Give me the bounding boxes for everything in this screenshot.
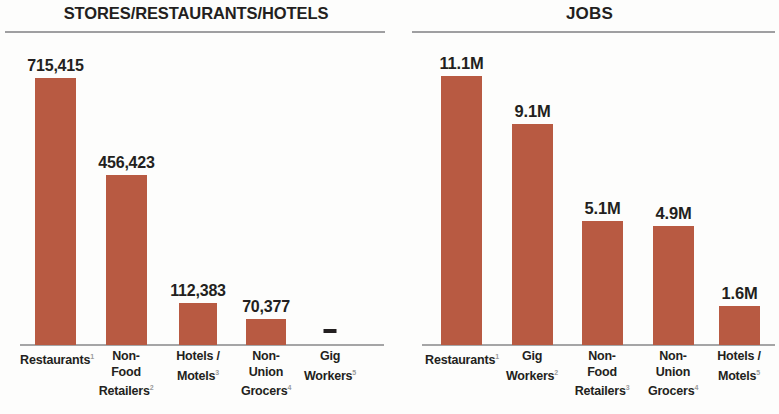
x-axis-label-line: Non- (568, 349, 636, 365)
bar-value-label: 715,415 (27, 57, 83, 75)
x-axis-label-line: Grocers4 (234, 380, 298, 400)
x-axis-label-line: Hotels / (707, 349, 771, 365)
footnote-marker: 4 (287, 384, 291, 391)
bar-value-label: 5.1M (585, 199, 621, 218)
bar-value-label: 9.1M (515, 102, 551, 121)
chart-panel-stores-restaurants-hotels: STORES/RESTAURANTS/HOTELS 715,415456,423… (0, 0, 392, 414)
bar-value-label: 11.1M (440, 54, 484, 73)
right-chart-title: JOBS (400, 4, 779, 24)
x-axis-label-line: Restaurants1 (14, 349, 100, 369)
footnote-marker: 2 (150, 384, 154, 391)
x-axis-label-line: Food (93, 365, 159, 381)
left-title-divider (5, 31, 385, 33)
x-axis-label-line: Motels3 (164, 365, 232, 385)
bar (719, 306, 760, 345)
footnote-marker: 1 (495, 353, 499, 360)
right-title-divider (412, 31, 775, 33)
footnote-marker: 5 (352, 369, 356, 376)
x-axis-label-line: Non- (234, 349, 298, 365)
bar (582, 221, 623, 345)
bar-value-label: 1.6M (722, 284, 758, 303)
x-axis-label-line: Gig (501, 349, 563, 365)
x-axis-label-line: Hotels / (164, 349, 232, 365)
x-axis-category-label: Restaurants1 (14, 349, 100, 369)
bar (441, 76, 482, 345)
right-x-axis-labels: Restaurants1GigWorkers2Non-FoodRetailers… (400, 349, 779, 414)
infographic-sheet: STORES/RESTAURANTS/HOTELS 715,415456,423… (0, 0, 779, 414)
x-axis-category-label: Non-UnionGrocers4 (234, 349, 298, 400)
x-axis-label-line: Non- (93, 349, 159, 365)
bar (653, 226, 694, 345)
left-chart-title: STORES/RESTAURANTS/HOTELS (0, 4, 392, 23)
footnote-marker: 5 (756, 369, 760, 376)
footnote-marker: 4 (694, 384, 698, 391)
x-axis-category-label: Non-FoodRetailers2 (93, 349, 159, 400)
bar-value-label: 456,423 (98, 154, 154, 172)
left-plot-area: 715,415456,423112,38370,377 (0, 40, 392, 346)
x-axis-label-line: Workers2 (501, 365, 563, 385)
bar-value-label: 4.9M (656, 204, 692, 223)
footnote-marker: 2 (554, 369, 558, 376)
x-axis-category-label: GigWorkers5 (297, 349, 363, 384)
x-axis-category-label: Non-FoodRetailers3 (568, 349, 636, 400)
footnote-marker: 3 (215, 369, 219, 376)
bar (106, 175, 147, 345)
x-axis-label-line: Grocers4 (641, 380, 705, 400)
right-plot-area: 11.1M9.1M5.1M4.9M1.6M (400, 40, 779, 346)
bar-value-label: 70,377 (242, 298, 290, 316)
x-axis-label-line: Workers5 (297, 365, 363, 385)
x-axis-label-line: Union (641, 365, 705, 381)
bar-value-label: 112,383 (170, 282, 226, 300)
x-axis-category-label: Hotels /Motels5 (707, 349, 771, 384)
no-data-dash (324, 329, 337, 333)
x-axis-category-label: Hotels /Motels3 (164, 349, 232, 384)
x-axis-label-line: Gig (297, 349, 363, 365)
x-axis-label-line: Restaurants1 (417, 349, 507, 369)
chart-panel-jobs: JOBS 11.1M9.1M5.1M4.9M1.6M Restaurants1G… (400, 0, 779, 414)
x-axis-category-label: Restaurants1 (417, 349, 507, 369)
x-axis-category-label: GigWorkers2 (501, 349, 563, 384)
footnote-marker: 3 (626, 384, 630, 391)
bar (35, 78, 76, 345)
x-axis-label-line: Non- (641, 349, 705, 365)
x-axis-label-line: Food (568, 365, 636, 381)
x-axis-label-line: Retailers2 (93, 380, 159, 400)
bar (246, 319, 286, 345)
left-x-axis-labels: Restaurants1Non-FoodRetailers2Hotels /Mo… (0, 349, 392, 414)
x-axis-label-line: Motels5 (707, 365, 771, 385)
x-axis-label-line: Union (234, 365, 298, 381)
bar (179, 303, 217, 345)
x-axis-category-label: Non-UnionGrocers4 (641, 349, 705, 400)
x-axis-label-line: Retailers3 (568, 380, 636, 400)
bar (512, 124, 553, 345)
